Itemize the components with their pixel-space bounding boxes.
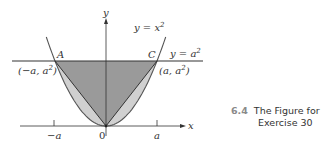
figure-caption: 6.4The Figure for Exercise 30	[231, 105, 320, 129]
point-C-label: C	[148, 49, 156, 60]
line-label: y = a2	[169, 47, 201, 59]
pos-a-label: a	[154, 130, 160, 141]
x-axis-arrow-icon	[180, 124, 186, 128]
origin-point	[105, 125, 108, 128]
parabola-label: y = x2	[133, 21, 165, 33]
neg-a-label: −a	[47, 130, 61, 141]
figure-number: 6.4	[231, 105, 248, 116]
x-axis-label: x	[188, 120, 194, 131]
parabola-diagram: y x 0 −a a y = x2 y = a2 A C (−a, a2) (a…	[0, 0, 230, 148]
origin-label: 0	[99, 130, 105, 141]
point-A-coordinates: (−a, a2)	[18, 64, 57, 76]
caption-line-2: Exercise 30	[231, 117, 320, 129]
y-axis-arrow-icon	[104, 18, 108, 24]
point-A-label: A	[56, 49, 64, 60]
caption-line-1: The Figure for	[254, 105, 320, 116]
y-axis-label: y	[102, 7, 109, 18]
point-C-coordinates: (a, a2)	[159, 64, 190, 76]
